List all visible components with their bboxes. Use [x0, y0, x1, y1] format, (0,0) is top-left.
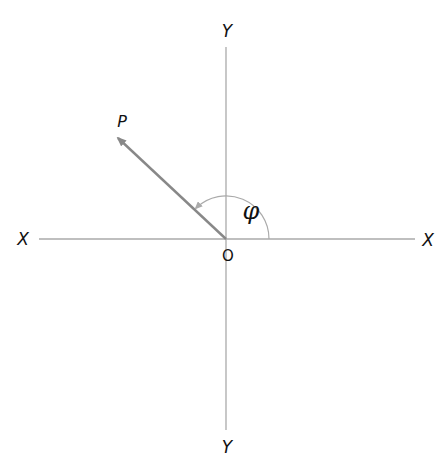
- y-top-label: Y: [222, 21, 234, 41]
- origin-label: O: [222, 247, 234, 265]
- diagram-svg: Y Y X X O P φ: [0, 0, 444, 467]
- y-bottom-label: Y: [222, 437, 234, 457]
- x-left-label: X: [16, 229, 29, 249]
- vector-op: [118, 138, 226, 239]
- point-p-label: P: [117, 112, 127, 131]
- angle-phi-label: φ: [243, 197, 260, 225]
- x-right-label: X: [421, 230, 434, 250]
- polar-diagram: Y Y X X O P φ: [0, 0, 444, 467]
